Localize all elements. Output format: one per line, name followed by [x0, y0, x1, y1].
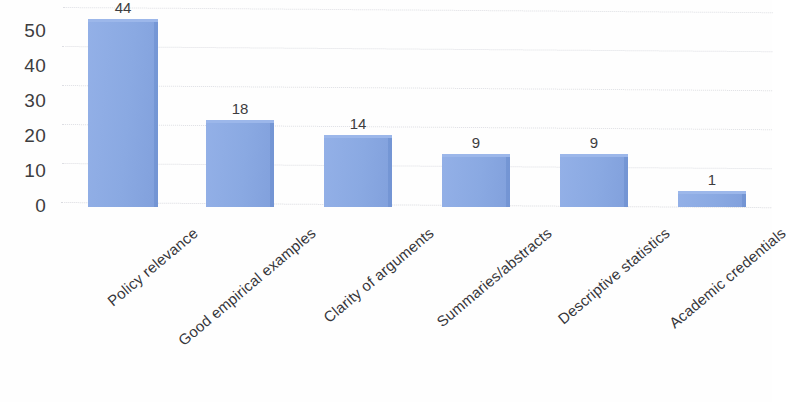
bar-good-empirical-examples[interactable] — [206, 122, 274, 207]
bar-clarity-of-arguments[interactable] — [324, 137, 392, 207]
bar-top-face — [560, 154, 628, 157]
bars: 44 18 14 9 — [62, 0, 772, 216]
y-axis-tick-label: 50 — [24, 21, 46, 40]
bar-top-face — [88, 19, 158, 22]
bar-value-label: 1 — [678, 171, 746, 188]
x-axis-labels: Policy relevance Good empirical examples… — [62, 224, 772, 402]
bar-policy-relevance[interactable] — [88, 21, 158, 207]
bar-top-face — [442, 154, 510, 157]
y-axis-labels: 50 40 30 20 10 0 — [0, 0, 58, 216]
bar-value-label: 9 — [560, 134, 628, 151]
bar-group-good-empirical-examples: 18 — [206, 0, 274, 216]
bar-value-label: 9 — [442, 134, 510, 151]
bar-summaries-abstracts[interactable] — [442, 156, 510, 207]
bar-descriptive-statistics[interactable] — [560, 156, 628, 207]
bar-top-face — [206, 120, 274, 123]
y-axis-tick-label: 0 — [35, 196, 46, 215]
bar-top-face — [324, 135, 392, 138]
bar-academic-credentials[interactable] — [678, 193, 746, 207]
bar-group-policy-relevance: 44 — [88, 0, 158, 216]
y-axis-tick-label: 30 — [24, 91, 46, 110]
bar-value-label: 14 — [324, 115, 392, 132]
bar-group-academic-credentials: 1 — [678, 0, 746, 216]
x-axis-label-policy-relevance: Policy relevance — [92, 224, 201, 319]
x-axis-label-good-empirical-examples: Good empirical examples — [120, 224, 319, 395]
y-axis-tick-label: 40 — [24, 56, 46, 75]
y-axis-tick-label: 10 — [24, 161, 46, 180]
bar-group-descriptive-statistics: 9 — [560, 0, 628, 216]
bar-value-label: 18 — [206, 100, 274, 117]
bar-value-label: 44 — [88, 0, 158, 16]
y-axis-tick-label: 20 — [24, 126, 46, 145]
bar-group-summaries-abstracts: 9 — [442, 0, 510, 216]
plot-area: 44 18 14 9 — [62, 0, 772, 216]
bar-top-face — [678, 191, 746, 194]
bar-group-clarity-of-arguments: 14 — [324, 0, 392, 216]
